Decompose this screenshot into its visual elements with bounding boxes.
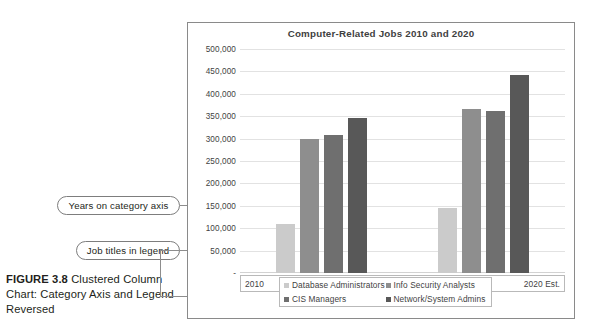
chart-container: Computer-Related Jobs 2010 and 2020 -50,…	[187, 22, 575, 319]
y-axis-tick-label: 400,000	[188, 89, 236, 98]
legend-item[interactable]: Database Administrators	[284, 280, 386, 290]
y-axis-tick-label: 250,000	[188, 157, 236, 166]
callout-years-on-category-axis: Years on category axis	[57, 196, 180, 215]
category-axis-label: 2020 Est.	[524, 279, 560, 289]
y-axis-tick-labels: -50,000100,000150,000200,000250,000300,0…	[188, 49, 236, 273]
bar	[438, 208, 457, 273]
bar	[462, 109, 481, 273]
legend-item[interactable]: Info Security Analysts	[386, 280, 488, 290]
y-axis-tick-label: 200,000	[188, 179, 236, 188]
leader-line-legend-v	[160, 250, 161, 297]
legend-label: Database Administrators	[292, 280, 385, 290]
category-axis-label: 2010	[245, 279, 264, 289]
y-axis-tick-label: 500,000	[188, 45, 236, 54]
y-axis-tick-label: 100,000	[188, 224, 236, 233]
gridline	[240, 71, 565, 72]
figure-caption: FIGURE 3.8 Clustered Column Chart: Categ…	[6, 272, 186, 318]
legend-swatch-icon	[284, 283, 289, 288]
chart-legend: Database AdministratorsInfo Security Ana…	[279, 277, 492, 307]
y-axis-tick-label: 300,000	[188, 134, 236, 143]
callout-legend-label: Job titles in legend	[87, 245, 169, 256]
legend-label: Info Security Analysts	[394, 280, 476, 290]
bar	[300, 139, 319, 273]
plot-area	[240, 49, 565, 273]
legend-item[interactable]: Network/System Admins	[386, 294, 488, 304]
legend-item[interactable]: CIS Managers	[284, 294, 386, 304]
bar	[324, 135, 343, 273]
callout-years-label: Years on category axis	[68, 200, 168, 211]
legend-label: CIS Managers	[292, 294, 346, 304]
y-axis-tick-label: 150,000	[188, 201, 236, 210]
bar	[348, 118, 367, 273]
y-axis-tick-label: 50,000	[188, 246, 236, 255]
legend-label: Network/System Admins	[394, 294, 486, 304]
bar	[276, 224, 295, 273]
y-axis-tick-label: -	[188, 269, 236, 278]
legend-swatch-icon	[284, 297, 289, 302]
bar	[510, 75, 529, 273]
chart-title: Computer-Related Jobs 2010 and 2020	[188, 28, 574, 39]
figure-number: FIGURE 3.8	[6, 273, 68, 285]
bar	[486, 111, 505, 273]
gridline	[240, 49, 565, 50]
y-axis-tick-label: 350,000	[188, 112, 236, 121]
legend-swatch-icon	[386, 297, 391, 302]
y-axis-tick-label: 450,000	[188, 67, 236, 76]
legend-swatch-icon	[386, 283, 391, 288]
